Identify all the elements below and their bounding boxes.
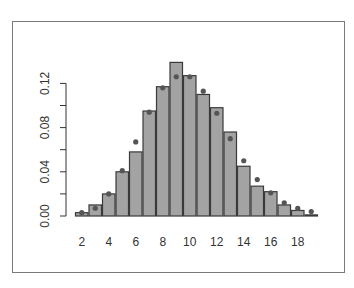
x-tick-label: 18 — [291, 235, 305, 249]
bar-7 — [143, 111, 156, 216]
point-7 — [147, 110, 152, 115]
bar-14 — [238, 166, 251, 216]
bar-13 — [224, 132, 237, 216]
point-9 — [174, 74, 179, 79]
bar-17 — [278, 205, 291, 216]
bar-4 — [103, 194, 116, 216]
point-6 — [133, 139, 138, 144]
bar-19 — [305, 215, 318, 216]
x-tick-label: 10 — [183, 235, 197, 249]
point-15 — [255, 177, 260, 182]
bar-12 — [211, 108, 224, 216]
point-5 — [120, 168, 125, 173]
y-tick-label: 0.00 — [38, 204, 52, 228]
y-tick-label: 0.12 — [38, 71, 52, 95]
point-11 — [201, 89, 206, 94]
bar-15 — [251, 186, 264, 216]
bar-6 — [130, 152, 143, 216]
bar-8 — [157, 87, 170, 216]
point-19 — [309, 209, 314, 214]
point-10 — [187, 74, 192, 79]
point-12 — [214, 111, 219, 116]
point-14 — [241, 158, 246, 163]
bar-18 — [292, 210, 305, 216]
point-3 — [93, 206, 98, 211]
point-8 — [160, 85, 165, 90]
x-tick-label: 6 — [132, 235, 139, 249]
bar-5 — [116, 172, 129, 216]
y-tick-label: 0.04 — [38, 160, 52, 184]
bars-group — [76, 62, 318, 216]
point-18 — [295, 206, 300, 211]
x-tick-label: 4 — [105, 235, 112, 249]
bar-9 — [170, 62, 183, 216]
x-axis-labels: 24681012141618 — [78, 235, 304, 249]
x-tick-label: 14 — [237, 235, 251, 249]
point-13 — [228, 136, 233, 141]
point-16 — [268, 190, 273, 195]
bar-chart: 0.000.040.080.12 24681012141618 — [0, 0, 354, 288]
bar-10 — [184, 76, 197, 216]
y-axis: 0.000.040.080.12 — [38, 71, 66, 227]
point-4 — [106, 191, 111, 196]
point-17 — [282, 200, 287, 205]
bar-11 — [197, 94, 210, 216]
x-tick-label: 8 — [159, 235, 166, 249]
x-tick-label: 16 — [264, 235, 278, 249]
x-tick-label: 2 — [78, 235, 85, 249]
point-2 — [79, 210, 84, 215]
x-tick-label: 12 — [210, 235, 224, 249]
y-tick-label: 0.08 — [38, 116, 52, 140]
